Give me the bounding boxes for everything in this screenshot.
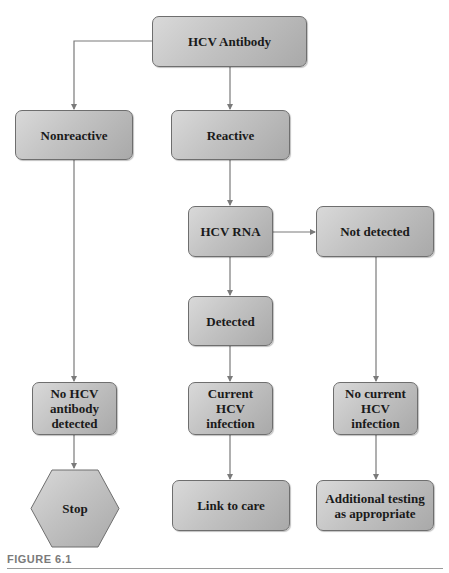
node-label: HCV RNA [200, 224, 260, 239]
node-hcv-antibody: HCV Antibody [152, 16, 307, 67]
node-reactive: Reactive [171, 110, 290, 160]
node-additional-testing: Additional testing as appropriate [316, 480, 434, 531]
node-label: Reactive [207, 128, 255, 143]
node-label: Stop [62, 501, 87, 517]
node-label: Detected [206, 314, 254, 329]
node-label: HCV Antibody [188, 34, 271, 49]
node-current-hcv-infection: Current HCV infection [188, 382, 273, 435]
node-label: Additional testing as appropriate [325, 491, 424, 521]
node-link-to-care: Link to care [172, 480, 290, 531]
caption-rule [7, 568, 443, 569]
edge-antibody-to-nonreactive [74, 41, 152, 109]
node-nonreactive: Nonreactive [15, 110, 133, 160]
node-not-detected: Not detected [316, 206, 434, 257]
node-label: Current HCV infection [206, 386, 254, 431]
node-label: Not detected [340, 224, 410, 239]
node-label: No current HCV infection [345, 386, 406, 431]
node-detected: Detected [188, 296, 273, 346]
node-label: No HCV antibody detected [50, 386, 99, 431]
node-no-current-hcv-infection: No current HCV infection [333, 382, 418, 435]
node-label: Nonreactive [41, 128, 108, 143]
node-no-hcv-antibody-detected: No HCV antibody detected [32, 382, 117, 435]
node-hcv-rna: HCV RNA [188, 206, 273, 257]
figure-caption: FIGURE 6.1 [7, 553, 72, 565]
node-label: Link to care [197, 498, 265, 513]
node-stop: Stop [30, 469, 120, 548]
